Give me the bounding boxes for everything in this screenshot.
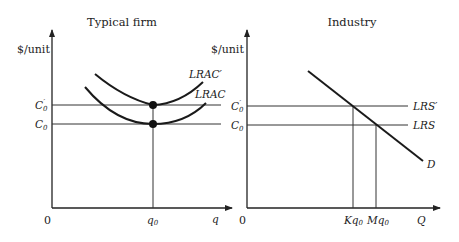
lrac-prime-curve <box>95 74 203 105</box>
demand-label: D <box>426 158 436 170</box>
lrs-prime-label: LRS′ <box>412 100 438 112</box>
mq0-tick-label: Mq0 <box>366 214 389 227</box>
lrac-prime-label: LRAC′ <box>188 68 222 80</box>
q0-tick-label: q0 <box>147 214 159 227</box>
right-origin-label: 0 <box>239 214 246 227</box>
right-c0-tick: C0 <box>231 119 244 133</box>
equilibrium-dot-lower <box>149 120 157 128</box>
left-x-axis-label: q <box>212 213 219 225</box>
right-y-axis-label: $/unit <box>211 43 244 56</box>
kq0-tick-label: Kq0 <box>343 214 364 227</box>
industry-title: Industry <box>327 15 377 29</box>
diagram-canvas: Typical firm $/unit LRAC′ LRAC C0′ C0 0 … <box>0 0 459 242</box>
left-c0-tick: C0 <box>35 118 48 132</box>
equilibrium-dot-upper <box>149 101 157 109</box>
right-x-axis-label: Q <box>417 214 426 227</box>
lrs-label: LRS <box>412 119 435 131</box>
left-c0-prime-tick: C0′ <box>35 98 48 113</box>
right-c0-prime-tick: C0′ <box>231 99 244 114</box>
demand-curve <box>308 71 423 161</box>
industry-panel: Industry $/unit LRS′ LRS D C0′ C0 0 Kq0 … <box>211 15 440 227</box>
left-y-axis-label: $/unit <box>17 43 50 56</box>
left-origin-label: 0 <box>44 214 51 227</box>
lrac-label: LRAC <box>194 88 226 100</box>
typical-firm-title: Typical firm <box>87 15 157 29</box>
typical-firm-panel: Typical firm $/unit LRAC′ LRAC C0′ C0 0 … <box>17 15 232 227</box>
